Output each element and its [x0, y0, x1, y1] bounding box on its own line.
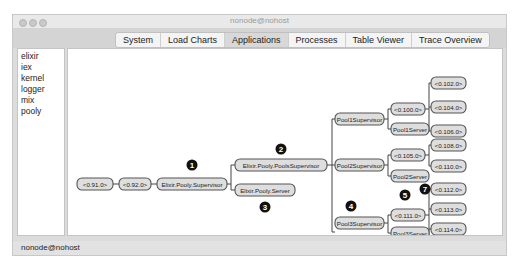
node-name-status: nonode@nohost: [21, 243, 80, 252]
supervision-tree: <0.91.0> <0.92.0> Elixir.Pooly.Superviso…: [68, 49, 502, 235]
tab-bar: System Load Charts Applications Processe…: [13, 28, 506, 48]
worker-node[interactable]: <0.110.0>: [431, 160, 466, 172]
tab-processes[interactable]: Processes: [289, 33, 346, 47]
status-bar: nonode@nohost: [13, 241, 506, 255]
worker-node[interactable]: <0.113.0>: [431, 203, 466, 215]
applications-list: elixir iex kernel logger mix pooly: [17, 48, 65, 236]
svg-text:5: 5: [403, 191, 408, 200]
worker-node[interactable]: <0.102.0>: [431, 77, 466, 89]
app-item-mix[interactable]: mix: [18, 95, 64, 106]
annotation-marker-5: 5: [400, 190, 411, 201]
svg-text:Pool1Supervisor: Pool1Supervisor: [337, 116, 382, 123]
svg-text:<0.108.0>: <0.108.0>: [435, 142, 463, 149]
svg-text:<0.114.0>: <0.114.0>: [435, 226, 463, 233]
svg-text:3: 3: [263, 203, 268, 212]
app-item-logger[interactable]: logger: [18, 84, 64, 95]
process-node[interactable]: <0.91.0>: [77, 178, 113, 190]
annotation-marker-3: 3: [260, 202, 271, 213]
supervision-tree-canvas: <0.91.0> <0.92.0> Elixir.Pooly.Superviso…: [67, 48, 503, 236]
svg-text:<0.106.0>: <0.106.0>: [435, 128, 463, 135]
process-node[interactable]: <0.111.0>: [391, 209, 425, 221]
svg-text:Pool2Server: Pool2Server: [393, 173, 427, 180]
app-item-elixir[interactable]: elixir: [18, 51, 64, 62]
svg-text:<0.111.0>: <0.111.0>: [395, 212, 422, 219]
process-node[interactable]: <0.92.0>: [119, 178, 151, 190]
svg-text:4: 4: [349, 202, 354, 211]
worker-node[interactable]: <0.106.0>: [431, 125, 466, 137]
svg-text:Elixir.Pooly.Supervisor: Elixir.Pooly.Supervisor: [161, 181, 222, 188]
annotation-marker-2: 2: [276, 144, 287, 155]
window-title: nonode@nohost: [13, 16, 506, 25]
svg-text:2: 2: [279, 145, 284, 154]
app-item-kernel[interactable]: kernel: [18, 73, 64, 84]
svg-text:<0.100.0>: <0.100.0>: [394, 106, 422, 113]
annotation-marker-7: 7: [420, 184, 431, 195]
tab-table-viewer[interactable]: Table Viewer: [346, 33, 412, 47]
svg-text:<0.105.0>: <0.105.0>: [394, 152, 422, 159]
tab-applications[interactable]: Applications: [225, 33, 289, 47]
pool1-server-node[interactable]: Pool1Server: [391, 123, 429, 135]
annotation-marker-4: 4: [346, 201, 357, 212]
svg-text:<0.92.0>: <0.92.0>: [123, 181, 148, 188]
worker-node[interactable]: <0.114.0>: [431, 223, 466, 235]
app-item-iex[interactable]: iex: [18, 62, 64, 73]
tab-strip: System Load Charts Applications Processe…: [115, 32, 490, 48]
tab-trace-overview[interactable]: Trace Overview: [412, 33, 489, 47]
app-item-pooly[interactable]: pooly: [18, 106, 64, 117]
svg-text:<0.110.0>: <0.110.0>: [435, 163, 463, 170]
annotation-marker-1: 1: [187, 160, 198, 171]
svg-text:<0.102.0>: <0.102.0>: [435, 80, 463, 87]
svg-text:Pool3Server: Pool3Server: [393, 230, 427, 236]
svg-text:7: 7: [423, 185, 428, 194]
svg-text:<0.104.0>: <0.104.0>: [435, 104, 463, 111]
process-node[interactable]: <0.105.0>: [391, 149, 425, 161]
server-node[interactable]: Elixir.Pooly.Server: [235, 184, 295, 196]
tab-system[interactable]: System: [116, 33, 161, 47]
title-bar: nonode@nohost: [13, 15, 506, 28]
svg-text:<0.91.0>: <0.91.0>: [83, 181, 108, 188]
svg-text:Pool2Supervisor: Pool2Supervisor: [337, 162, 382, 169]
process-node[interactable]: <0.100.0>: [391, 103, 425, 115]
observer-window: nonode@nohost System Load Charts Applica…: [12, 14, 507, 256]
svg-text:Elixir.Pooly.Server: Elixir.Pooly.Server: [240, 187, 290, 194]
svg-text:<0.113.0>: <0.113.0>: [435, 206, 463, 213]
pool2-server-node[interactable]: Pool2Server: [391, 170, 429, 182]
svg-text:Pool1Server: Pool1Server: [393, 126, 427, 133]
svg-text:1: 1: [190, 161, 195, 170]
pool1-supervisor-node[interactable]: Pool1Supervisor: [335, 113, 384, 125]
svg-text:Elixir.Pooly.PoolsSupervisor: Elixir.Pooly.PoolsSupervisor: [243, 162, 320, 169]
svg-text:Pool3Supervisor: Pool3Supervisor: [337, 220, 382, 227]
pool2-supervisor-node[interactable]: Pool2Supervisor: [335, 159, 384, 171]
worker-node[interactable]: <0.108.0>: [431, 139, 466, 151]
pools-supervisor-node[interactable]: Elixir.Pooly.PoolsSupervisor: [235, 159, 327, 171]
worker-node[interactable]: <0.104.0>: [431, 101, 466, 113]
pool3-server-node[interactable]: Pool3Server: [391, 227, 429, 235]
worker-node[interactable]: <0.112.0>: [431, 183, 466, 195]
pool3-supervisor-node[interactable]: Pool3Supervisor: [335, 217, 384, 229]
svg-text:<0.112.0>: <0.112.0>: [435, 186, 463, 193]
tab-load-charts[interactable]: Load Charts: [161, 33, 225, 47]
supervisor-node[interactable]: Elixir.Pooly.Supervisor: [157, 178, 227, 190]
